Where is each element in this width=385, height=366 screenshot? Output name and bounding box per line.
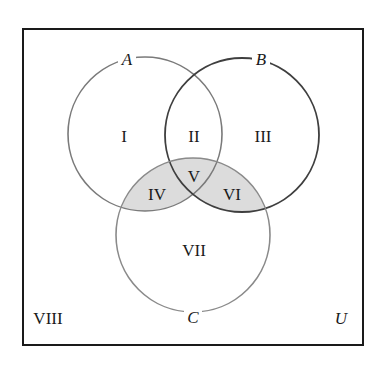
set-a-label: A — [121, 50, 133, 69]
region-vi-label: VI — [223, 185, 241, 204]
region-viii-label: VIII — [33, 309, 63, 328]
set-b-label: B — [256, 50, 267, 69]
universe-label: U — [335, 309, 349, 328]
region-iii-label: III — [255, 127, 272, 146]
region-i-label: I — [121, 127, 127, 146]
region-iv-label: IV — [148, 185, 167, 204]
venn-diagram: A B C I II III IV V VI VII VIII U — [0, 0, 385, 366]
region-ii-label: II — [188, 127, 200, 146]
region-v-label: V — [188, 167, 201, 186]
region-vii-label: VII — [182, 241, 206, 260]
set-c-label: C — [187, 308, 199, 327]
